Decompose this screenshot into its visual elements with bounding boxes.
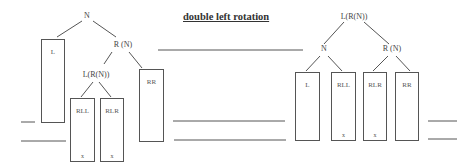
edge-rl-to-rlr [99, 82, 111, 97]
edge-n-to-l [57, 21, 82, 37]
edge-root-to-n [324, 22, 344, 44]
subtree-label: RR [396, 81, 418, 89]
double-left-rotation-diagram: double left rotation N R (N) L(R(N)) L R… [0, 0, 475, 167]
before-right-left-node: L(R(N)) [83, 71, 110, 79]
after-subtree-rll: RLL x [331, 72, 356, 141]
edge-n-to-r [93, 21, 116, 37]
before-right-node: R (N) [114, 41, 132, 49]
after-right-node: R (N) [383, 45, 401, 53]
subtree-label: RLL [71, 107, 94, 115]
subtree-mark: x [364, 132, 386, 138]
after-subtree-l: L [295, 72, 320, 141]
after-subtree-rlr: RLR x [363, 72, 387, 141]
before-root-node: N [84, 12, 90, 20]
edge-r-to-rr-after [396, 56, 410, 71]
before-subtree-rll: RLL x [70, 98, 95, 162]
edge-r-to-rr [129, 52, 142, 68]
subtree-mark: x [101, 153, 123, 159]
subtree-label: RLR [101, 107, 123, 115]
edge-n-to-rll-after [328, 56, 342, 71]
after-subtree-rr: RR [395, 72, 419, 141]
subtree-label: L [296, 81, 319, 89]
subtree-label: L [42, 48, 64, 56]
subtree-mark: x [332, 132, 355, 138]
subtree-mark: x [71, 153, 94, 159]
subtree-label: RLR [364, 81, 386, 89]
before-subtree-rlr: RLR x [100, 98, 124, 162]
edge-root-to-r [364, 22, 389, 44]
before-subtree-rr: RR [139, 69, 164, 142]
before-subtree-l: L [41, 39, 65, 123]
subtree-label: RLL [332, 81, 355, 89]
edge-r-to-rl [104, 52, 112, 64]
edge-r-to-rlr-after [373, 56, 388, 71]
after-left-node: N [321, 45, 327, 53]
diagram-title: double left rotation [183, 11, 269, 22]
edge-n-to-l-after [306, 56, 320, 71]
edge-rl-to-rll [81, 82, 93, 97]
subtree-label: RR [140, 78, 163, 86]
after-root-node: L(R(N)) [341, 13, 368, 21]
